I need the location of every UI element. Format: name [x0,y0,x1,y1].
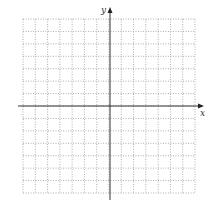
coordinate-plane: x y [0,0,215,205]
y-axis-arrow-icon [108,7,113,13]
axes: x y [18,5,205,200]
x-axis-label: x [200,108,205,118]
y-axis-label: y [100,5,107,15]
